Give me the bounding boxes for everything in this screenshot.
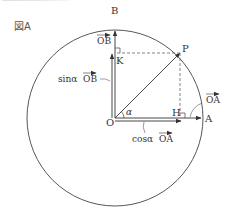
svg-text:OB: OB <box>83 74 97 84</box>
label-K: K <box>116 55 124 66</box>
unit-circle-diagram: 図A B P K H A O α OB OA sinα OB cosα OA <box>0 0 235 211</box>
angle-arc <box>121 112 124 118</box>
svg-text:OA: OA <box>206 95 220 105</box>
leader-cos <box>143 122 145 133</box>
label-alpha: α <box>126 107 132 117</box>
leader-OA <box>190 103 202 117</box>
right-angle-K <box>115 48 120 53</box>
svg-text:OB: OB <box>97 36 111 46</box>
right-angle-H <box>180 113 185 118</box>
label-O: O <box>106 117 114 128</box>
svg-text:sinα: sinα <box>58 74 77 84</box>
label-A: A <box>204 113 213 124</box>
figure-title: 図A <box>14 21 31 32</box>
label-B: B <box>111 5 118 16</box>
leader-sin <box>100 79 110 81</box>
label-vec-OA: OA <box>206 94 220 105</box>
label-cos-alpha-OA: cosα OA <box>132 133 173 144</box>
label-P: P <box>182 43 189 54</box>
vector-OP <box>115 53 180 118</box>
svg-text:cosα: cosα <box>132 134 153 144</box>
label-H: H <box>172 107 181 118</box>
svg-text:OA: OA <box>159 134 173 144</box>
label-vec-OB: OB <box>97 35 111 46</box>
label-sin-alpha-OB: sinα OB <box>58 73 97 84</box>
